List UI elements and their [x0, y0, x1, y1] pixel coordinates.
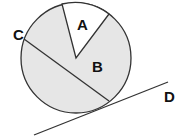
label-c: C: [13, 26, 24, 43]
label-d: D: [164, 88, 175, 105]
label-a: A: [77, 16, 88, 33]
circle-diagram: A B C D: [0, 0, 184, 136]
label-b: B: [92, 58, 103, 75]
